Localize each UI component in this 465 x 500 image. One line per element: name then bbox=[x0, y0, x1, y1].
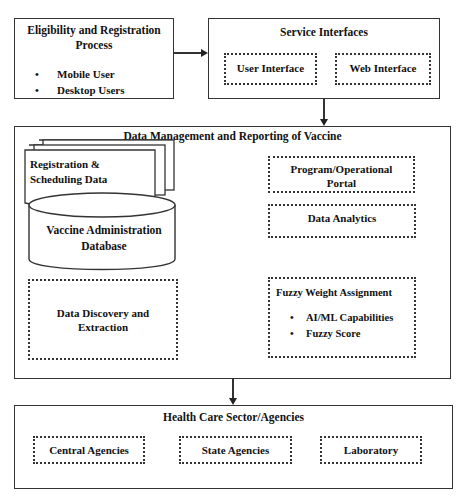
health-care-sector-box: Health Care Sector/Agencies Central Agen… bbox=[14, 405, 453, 489]
eligibility-title: Eligibility and Registration Process bbox=[15, 23, 173, 53]
health-care-title: Health Care Sector/Agencies bbox=[15, 410, 452, 425]
service-interfaces-box: Service Interfaces User Interface Web In… bbox=[208, 18, 440, 99]
arrowhead-down-icon bbox=[229, 398, 237, 405]
arrowhead-right-icon bbox=[201, 49, 208, 57]
bullet-icon: • bbox=[290, 310, 304, 325]
data-analytics-box: Data Analytics bbox=[268, 204, 416, 238]
bullet-icon: • bbox=[35, 67, 49, 82]
fuzzy-weight-title: Fuzzy Weight Assignment bbox=[276, 286, 392, 300]
central-agencies-box: Central Agencies bbox=[33, 436, 145, 464]
bullet-icon: • bbox=[290, 326, 304, 341]
fuzzy-item-score: •Fuzzy Score bbox=[290, 326, 360, 341]
fuzzy-item-aiml: •AI/ML Capabilities bbox=[290, 310, 393, 325]
user-interface-box: User Interface bbox=[224, 53, 317, 85]
registration-scheduling-label: Registration & Scheduling Data bbox=[30, 157, 107, 187]
arrow-service-to-data-management bbox=[323, 99, 325, 120]
service-interfaces-title: Service Interfaces bbox=[209, 25, 439, 40]
web-interface-box: Web Interface bbox=[335, 53, 431, 85]
fuzzy-weight-assignment-box: Fuzzy Weight Assignment •AI/ML Capabilit… bbox=[268, 277, 416, 358]
laboratory-box: Laboratory bbox=[320, 436, 422, 464]
eligibility-registration-box: Eligibility and Registration Process •Mo… bbox=[14, 18, 174, 99]
eligibility-item-desktop: •Desktop Users bbox=[35, 83, 125, 98]
vaccine-admin-database-label: Vaccine Administration Database bbox=[29, 222, 179, 254]
arrowhead-down-icon bbox=[320, 119, 328, 126]
bullet-icon: • bbox=[35, 83, 49, 98]
data-discovery-extraction-box: Data Discovery and Extraction bbox=[28, 279, 178, 360]
arrow-data-management-to-health-care bbox=[232, 379, 234, 399]
program-operational-portal-box: Program/Operational Portal bbox=[268, 156, 415, 193]
eligibility-item-mobile: •Mobile User bbox=[35, 67, 115, 82]
arrow-eligibility-to-service bbox=[174, 52, 202, 54]
data-management-box: Data Management and Reporting of Vaccine… bbox=[14, 126, 451, 379]
state-agencies-box: State Agencies bbox=[179, 436, 292, 464]
